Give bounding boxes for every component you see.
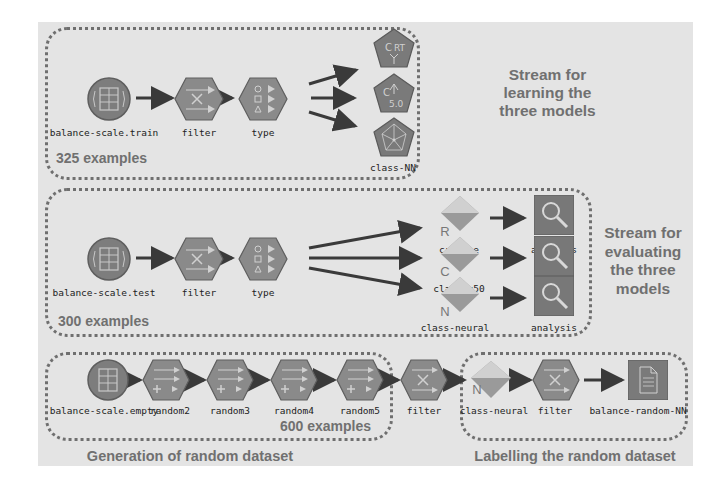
arrow: [309, 70, 356, 84]
node-label: class-neural: [421, 322, 490, 333]
node-label: filter: [538, 405, 572, 416]
node-label: random2: [150, 405, 190, 416]
node-label: filter: [407, 405, 441, 416]
c-rt-model-icon[interactable]: C RT: [372, 27, 416, 71]
derive-icon[interactable]: [142, 358, 190, 402]
arrow: [309, 228, 420, 248]
node-label: type: [252, 127, 275, 138]
node-label: class-neural: [460, 405, 529, 416]
filter-icon[interactable]: [400, 358, 448, 402]
c50-model-icon[interactable]: C 5.0: [372, 72, 416, 116]
derive-icon[interactable]: [270, 358, 318, 402]
derive-icon[interactable]: [336, 358, 384, 402]
node-label: filter: [182, 127, 216, 138]
magnifier-icon[interactable]: [534, 276, 574, 316]
magnifier-icon[interactable]: [534, 195, 574, 235]
node-label: balance-scale.test: [53, 287, 156, 298]
filter-icon[interactable]: [532, 358, 580, 402]
magnifier-icon[interactable]: [534, 236, 574, 276]
type-icon[interactable]: [238, 236, 288, 282]
node-label: balance-random-NN: [589, 405, 686, 416]
arrow: [309, 112, 355, 126]
derive-icon[interactable]: [206, 358, 254, 402]
svg-text:C: C: [385, 42, 392, 53]
node-label: type: [252, 287, 275, 298]
database-icon[interactable]: [86, 358, 130, 402]
type-icon[interactable]: [238, 76, 288, 122]
database-icon[interactable]: [86, 76, 132, 122]
svg-text:5.0: 5.0: [389, 99, 404, 109]
svg-text:C: C: [383, 87, 390, 98]
nugget-letter: N: [472, 382, 481, 397]
node-label: random5: [340, 405, 380, 416]
nugget-letter: N: [440, 304, 449, 319]
arrow: [309, 268, 420, 288]
node-label: class-NN: [370, 162, 416, 173]
node-label: random3: [210, 405, 250, 416]
filter-icon[interactable]: [174, 76, 224, 122]
node-label: filter: [182, 287, 216, 298]
filter-icon[interactable]: [174, 236, 224, 282]
neural-net-model-icon[interactable]: [372, 116, 416, 160]
svg-text:RT: RT: [394, 43, 406, 53]
node-label: analysis: [531, 322, 577, 333]
node-label: balance-scale.empty: [50, 405, 159, 416]
node-label: balance-scale.train: [50, 127, 159, 138]
node-label: random4: [274, 405, 314, 416]
database-icon[interactable]: [86, 236, 132, 282]
document-icon[interactable]: [628, 360, 668, 400]
